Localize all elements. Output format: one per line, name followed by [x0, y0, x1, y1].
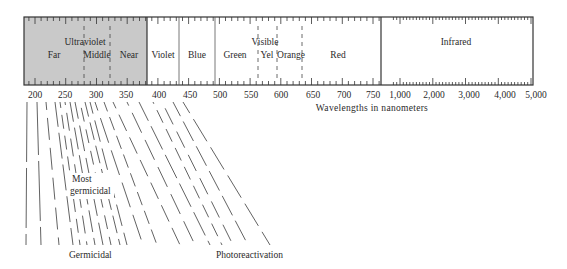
axis-label: Wavelengths in nanometers [316, 103, 428, 113]
svg-text:1,000: 1,000 [389, 90, 411, 100]
label-yellow: Yel [261, 50, 274, 60]
label-near: Near [120, 50, 139, 60]
svg-text:700: 700 [337, 90, 352, 100]
svg-text:400: 400 [152, 90, 167, 100]
label-violet: Violet [151, 50, 175, 60]
label-ultraviolet: Ultraviolet [64, 37, 106, 47]
label-germicidal: Germicidal [69, 250, 112, 260]
svg-text:4,000: 4,000 [494, 90, 516, 100]
svg-text:500: 500 [213, 90, 228, 100]
axis-tick-labels: 200 250 300 350 400 450 500 550 600 650 … [28, 90, 547, 100]
svg-text:200: 200 [28, 90, 43, 100]
svg-text:3,000: 3,000 [458, 90, 480, 100]
svg-text:350: 350 [119, 90, 134, 100]
wavelength-range-lines [26, 102, 270, 245]
svg-text:650: 650 [306, 90, 321, 100]
label-blue: Blue [188, 50, 206, 60]
label-germicidal-peak: germicidal [70, 186, 111, 196]
label-far: Far [48, 50, 62, 60]
svg-text:550: 550 [244, 90, 259, 100]
label-green: Green [223, 50, 246, 60]
label-infrared: Infrared [441, 37, 472, 47]
svg-text:250: 250 [58, 90, 73, 100]
label-red: Red [330, 50, 346, 60]
svg-text:2,000: 2,000 [423, 90, 445, 100]
svg-text:750: 750 [366, 90, 381, 100]
label-middle: Middle [83, 50, 110, 60]
label-orange: Orange [277, 50, 305, 60]
label-photoreactivation: Photoreactivation [216, 250, 283, 260]
svg-text:5,000: 5,000 [525, 90, 547, 100]
svg-text:300: 300 [89, 90, 104, 100]
svg-text:450: 450 [183, 90, 198, 100]
label-visible: Visible [252, 37, 279, 47]
spectrum-diagram: Ultraviolet Far Middle Near Visible Viol… [0, 0, 567, 269]
svg-text:600: 600 [274, 90, 289, 100]
label-most: Most [72, 174, 92, 184]
